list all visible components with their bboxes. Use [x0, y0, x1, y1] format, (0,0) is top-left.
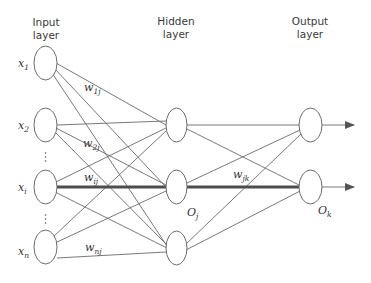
input-label-x2: x2	[18, 119, 29, 134]
input-node-1	[34, 46, 57, 80]
hidden-nodes	[166, 108, 187, 265]
activation-labels: Oj Ok	[187, 204, 332, 221]
input-nodes	[34, 46, 57, 264]
final-output-label-ok: Ok	[318, 204, 332, 219]
hidden-node-j	[166, 170, 187, 204]
weight-label-w2j: w2j	[83, 137, 100, 152]
hidden-layer-title: Hidden layer	[157, 15, 194, 40]
hidden-node-3	[166, 231, 187, 265]
hidden-layer-title-line1: Hidden	[157, 15, 194, 27]
hidden-output-label-oj: Oj	[187, 206, 199, 221]
input-labels: x1 x2 xi xn	[18, 57, 29, 260]
input-node-2	[34, 108, 57, 142]
output-node-k	[299, 170, 322, 204]
hidden-layer-title-line2: layer	[163, 28, 190, 40]
input-hidden-edges	[52, 63, 167, 258]
output-layer-title: Output layer	[292, 15, 328, 40]
weight-label-wnj: wnj	[85, 241, 102, 256]
input-label-xi: xi	[18, 181, 27, 196]
input-label-x1: x1	[18, 57, 29, 72]
input-label-xn: xn	[18, 245, 29, 260]
output-layer-title-line1: Output	[292, 15, 328, 27]
output-nodes	[299, 108, 322, 204]
neural-network-diagram: Input layer Hidden layer Output layer	[0, 0, 371, 283]
output-node-1	[299, 108, 322, 142]
input-layer-title: Input layer	[32, 16, 59, 41]
weight-label-wjk: wjk	[233, 168, 250, 183]
output-arrows	[322, 125, 354, 187]
input-layer-title-line2: layer	[33, 29, 60, 41]
input-layer-title-line1: Input	[32, 16, 59, 28]
hidden-node-1	[166, 108, 187, 142]
weight-label-wij: wij	[84, 171, 99, 186]
weight-label-w1j: w1j	[84, 81, 101, 96]
input-node-i	[34, 170, 57, 204]
output-layer-title-line2: layer	[297, 28, 324, 40]
input-node-n	[34, 230, 57, 264]
